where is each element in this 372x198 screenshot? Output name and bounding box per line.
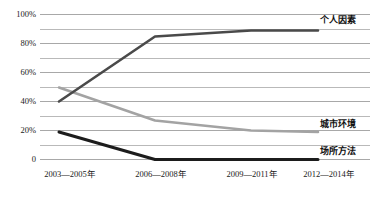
y-tick-label-100: 100% [16, 9, 36, 19]
y-tick-label-20: 20% [20, 125, 36, 135]
x-axis-labels: 2003—2005年 2006—2008年 2009—2011年 2012—20… [44, 169, 355, 179]
y-axis-labels: 100% 80% 60% 40% 20% 0 [16, 9, 36, 164]
x-tick-label-3: 2012—2014年 [303, 169, 355, 179]
series-label-urban-environment: 城市环境 [320, 118, 356, 129]
y-tick-label-40: 40% [20, 96, 36, 106]
x-tick-label-1: 2006—2008年 [135, 169, 187, 179]
x-tick-label-2: 2009—2011年 [226, 169, 277, 179]
y-tick-label-80: 80% [20, 38, 36, 48]
series-line-personal-factors [59, 31, 318, 102]
series-line-venue-methods [59, 132, 318, 160]
series-label-personal-factors: 个人因素 [319, 14, 356, 25]
x-tick-label-0: 2003—2005年 [44, 169, 96, 179]
y-tick-label-60: 60% [20, 67, 36, 77]
gridlines [40, 15, 370, 160]
y-tick-label-0: 0 [32, 154, 36, 164]
series-line-urban-environment [59, 88, 318, 133]
chart-canvas: 100% 80% 60% 40% 20% 0 个人因素 城市环境 场所方法 20… [0, 0, 372, 198]
series-label-venue-methods: 场所方法 [320, 145, 356, 156]
line-chart: 100% 80% 60% 40% 20% 0 个人因素 城市环境 场所方法 20… [0, 0, 372, 198]
